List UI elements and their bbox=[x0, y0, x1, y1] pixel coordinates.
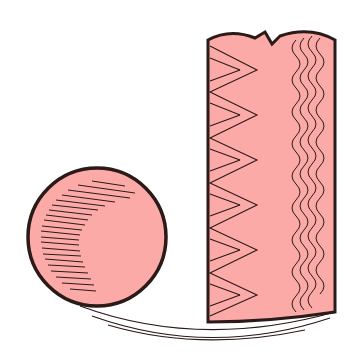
illustration-canvas bbox=[0, 0, 355, 359]
column bbox=[208, 32, 335, 322]
illustration-svg bbox=[0, 0, 355, 359]
sphere bbox=[28, 168, 166, 306]
